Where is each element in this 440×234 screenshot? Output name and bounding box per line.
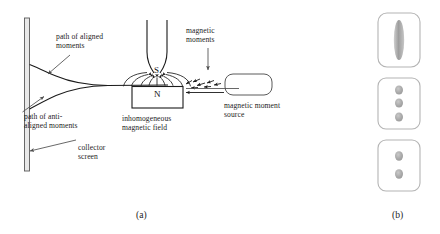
spot	[395, 112, 403, 121]
result-box-continuous-band	[378, 13, 420, 67]
result-box-two-spots	[378, 140, 420, 191]
caption-panel-b: (b)	[392, 209, 403, 220]
panel-b-artwork	[0, 0, 440, 234]
spot	[395, 85, 403, 94]
band-spot	[394, 20, 404, 60]
result-box-three-spots	[378, 78, 420, 129]
spot	[395, 98, 403, 107]
stern-gerlach-figure: path of aligned moments path of anti- al…	[0, 0, 440, 234]
spot	[395, 151, 403, 161]
spot	[395, 169, 403, 179]
